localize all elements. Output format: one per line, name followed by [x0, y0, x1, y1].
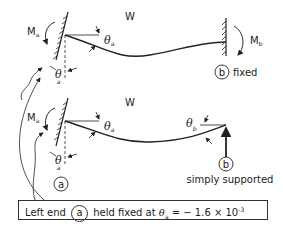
top-end-condition: fixed [233, 67, 257, 78]
caption-box: Left end a held fixed at θa = − 1.6 × 10… [18, 200, 268, 220]
bottom-end-a-label: a [58, 179, 64, 190]
pointer-curve-outer [20, 78, 45, 200]
caption-theta-sub: a [165, 213, 169, 220]
caption-end-id: a [71, 205, 88, 222]
bottom-theta-a-tick-upper [96, 112, 99, 119]
top-moment-b-label: Mb [250, 35, 263, 47]
caption-exponent: -3 [238, 206, 244, 213]
bottom-theta-vert-label: θa [55, 154, 62, 171]
bottom-theta-b-label: θb [186, 117, 197, 132]
top-theta-a-label: θa [104, 34, 115, 47]
top-end-b-label: b [219, 67, 225, 78]
bottom-theta-b-tick-lower [206, 138, 212, 144]
bottom-theta-vert-tick-right [68, 154, 77, 157]
top-left-wall [53, 12, 68, 60]
bottom-theta-a-label: θa [104, 120, 115, 133]
top-theta-vert-label: θa [55, 68, 62, 85]
bottom-end-condition: simply supported [187, 174, 274, 185]
caption-middle: held fixed at [93, 207, 155, 218]
caption-equation: = − 1.6 × 10 [172, 207, 238, 218]
bottom-moment-a-label: Ma [27, 112, 40, 124]
bottom-end-b-label: b [223, 159, 229, 170]
top-theta-vert-tick-right [68, 68, 77, 71]
pointer-curve-top [21, 68, 42, 100]
bottom-theta-a-tick-lower [89, 132, 95, 138]
bottom-beam [65, 121, 226, 142]
beam-diagram: Ma W θa θa Mb b fixed Ma W θa θa [0, 0, 283, 238]
top-right-wall [222, 18, 226, 56]
top-moment-b-arrow [234, 26, 243, 55]
top-theta-tick-upper [96, 26, 99, 33]
top-beam [65, 35, 226, 56]
top-moment-a-arrow [46, 22, 55, 44]
caption-prefix: Left end [25, 207, 66, 218]
top-moment-a-label: Ma [27, 26, 40, 38]
top-load-label: W [125, 11, 135, 22]
bottom-theta-b-tick-upper [205, 115, 208, 122]
top-theta-tick-lower [89, 46, 95, 52]
bottom-moment-a-arrow [46, 108, 55, 130]
bottom-load-label: W [125, 97, 135, 108]
